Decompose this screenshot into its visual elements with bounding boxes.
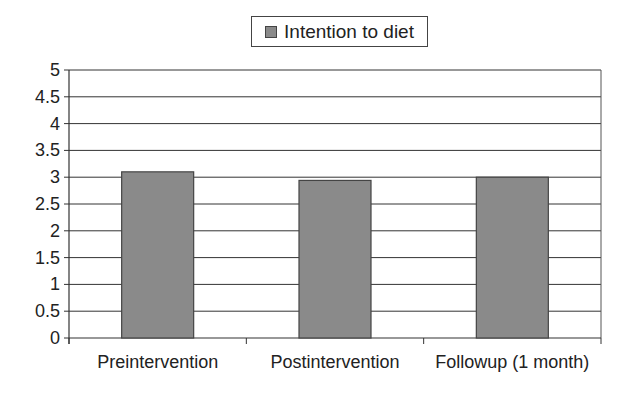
bar-followup-1-month-: [476, 177, 548, 338]
y-tick-label: 5: [50, 60, 60, 80]
x-tick-label: Postintervention: [270, 352, 399, 372]
y-tick-label: 2: [50, 221, 60, 241]
bar-chart: 00.511.522.533.544.55PreinterventionPost…: [0, 0, 625, 394]
y-tick-label: 1: [50, 274, 60, 294]
y-tick-label: 0.5: [35, 301, 60, 321]
x-tick-label: Followup (1 month): [435, 352, 589, 372]
x-tick-label: Preintervention: [97, 352, 218, 372]
y-tick-label: 0: [50, 328, 60, 348]
y-tick-label: 3.5: [35, 140, 60, 160]
bar-preintervention: [122, 172, 194, 338]
y-tick-label: 1.5: [35, 248, 60, 268]
y-tick-label: 2.5: [35, 194, 60, 214]
y-tick-label: 4: [50, 114, 60, 134]
bar-postintervention: [299, 180, 371, 338]
y-tick-label: 3: [50, 167, 60, 187]
y-tick-label: 4.5: [35, 87, 60, 107]
